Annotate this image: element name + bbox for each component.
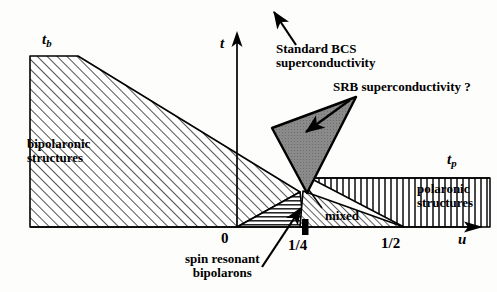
annotation-spin-resonant-line2: bipolarons <box>185 266 260 280</box>
region-label-bipolaronic: bipolaronic structures <box>27 137 90 164</box>
region-label-polaronic-line1: polaronic <box>417 182 473 196</box>
region-label-polaronic-line2: structures <box>417 196 473 210</box>
region-label-bipolaronic-line2: structures <box>27 151 90 165</box>
tb-subscript: b <box>46 37 51 49</box>
region-label-polaronic: polaronic structures <box>417 182 473 209</box>
tp-subscript: p <box>451 157 456 169</box>
annotation-standard-bcs-line2: superconductivity <box>276 56 375 70</box>
tick-quarter <box>302 219 309 235</box>
x-tick-half: 1/2 <box>381 236 400 252</box>
annotation-standard-bcs-line1: Standard BCS <box>276 42 375 56</box>
tb-marker-label: tb <box>42 32 52 50</box>
region-label-mixed: mixed <box>325 209 359 223</box>
x-tick-0: 0 <box>221 231 229 247</box>
x-tick-quarter: 1/4 <box>288 238 307 254</box>
tp-marker-label: tp <box>447 152 457 170</box>
annotation-spin-resonant-line1: spin resonant <box>185 252 260 266</box>
annotation-srb: SRB superconductivity ? <box>333 80 471 94</box>
annotation-standard-bcs: Standard BCS superconductivity <box>276 42 375 69</box>
region-label-bipolaronic-line1: bipolaronic <box>27 137 90 151</box>
phase-diagram-figure: t u tb tp 0 1/4 1/2 bipolaronic structur… <box>0 0 497 292</box>
x-axis-label: u <box>458 232 466 248</box>
annotation-spin-resonant: spin resonant bipolarons <box>185 252 260 279</box>
y-axis-label: t <box>220 36 224 52</box>
